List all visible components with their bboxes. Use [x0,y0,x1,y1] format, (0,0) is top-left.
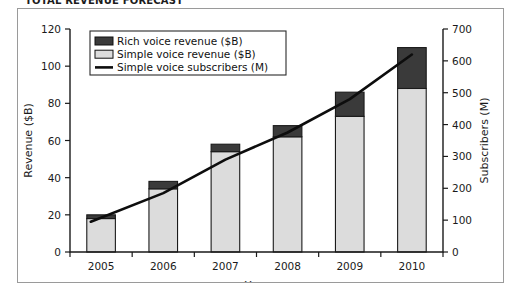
bar-simple-2008 [273,137,302,252]
chart-plot-area: 0204060801001200100200300400500600700200… [18,9,503,282]
y-axis-title: Revenue ($B) [22,103,35,178]
ytick-label-left-80: 80 [48,97,61,109]
chart-figure: TOTAL REVENUE FORECAST 02040608010012001… [0,0,520,299]
ytick-label-left-100: 100 [41,60,61,72]
ytick-label-right-100: 100 [452,214,472,226]
x-axis-title: Year [244,279,269,282]
legend-label-0: Rich voice revenue ($B) [117,35,243,47]
ytick-label-right-200: 200 [452,182,472,194]
figure-title: TOTAL REVENUE FORECAST [25,0,285,5]
figure-frame: 0204060801001200100200300400500600700200… [17,8,504,283]
legend-label-1: Simple voice revenue ($B) [117,48,256,60]
xtick-label-2005: 2005 [88,260,115,272]
ytick-label-right-0: 0 [452,246,459,258]
ytick-label-left-20: 20 [48,209,61,221]
ytick-label-left-0: 0 [54,246,61,258]
y2-axis-title: Subscribers (M) [478,98,491,184]
xtick-label-2009: 2009 [336,260,363,272]
ytick-label-left-40: 40 [48,172,61,184]
xtick-label-2007: 2007 [212,260,239,272]
legend-swatch-simple [95,50,113,58]
ytick-label-left-60: 60 [48,135,61,147]
bar-simple-2009 [335,116,364,252]
legend-label-2: Simple voice subscribers (M) [117,61,268,73]
legend-swatch-rich [95,37,113,45]
xtick-label-2008: 2008 [274,260,301,272]
ytick-label-left-120: 120 [41,23,61,35]
bar-simple-2005 [87,219,116,252]
bar-simple-2010 [398,88,427,252]
ytick-label-right-500: 500 [452,87,472,99]
ytick-label-right-600: 600 [452,55,472,67]
xtick-label-2006: 2006 [150,260,177,272]
ytick-label-right-700: 700 [452,23,472,35]
ytick-label-right-400: 400 [452,119,472,131]
bar-simple-2007 [211,152,240,252]
xtick-label-2010: 2010 [399,260,426,272]
ytick-label-right-300: 300 [452,150,472,162]
bar-rich-2007 [211,144,240,151]
